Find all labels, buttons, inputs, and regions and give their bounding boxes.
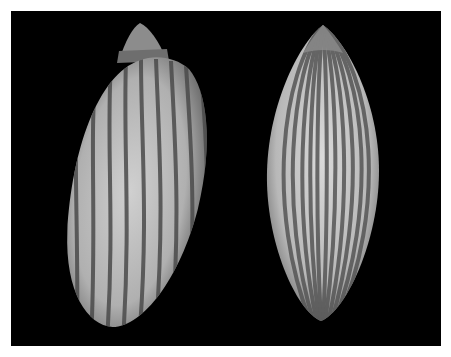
shells-photo (11, 11, 441, 346)
right-shell (267, 25, 379, 323)
left-shell (53, 23, 219, 341)
photo-frame (11, 11, 441, 346)
